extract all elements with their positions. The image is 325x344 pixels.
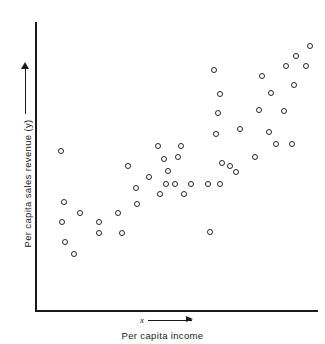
data-point xyxy=(157,191,163,197)
data-point xyxy=(181,191,187,197)
data-point xyxy=(161,156,167,162)
data-point xyxy=(188,181,194,187)
data-point xyxy=(268,90,274,96)
data-point xyxy=(62,239,68,245)
data-point xyxy=(58,148,64,154)
data-point xyxy=(219,160,225,166)
data-point xyxy=(77,210,83,216)
data-point xyxy=(71,251,77,257)
data-point xyxy=(289,141,295,147)
data-point xyxy=(293,53,299,59)
data-point xyxy=(307,43,313,49)
data-point xyxy=(165,168,171,174)
data-point xyxy=(237,126,243,132)
data-point xyxy=(155,143,161,149)
data-point xyxy=(256,107,262,113)
data-point xyxy=(96,219,102,225)
data-point xyxy=(281,108,287,114)
data-point xyxy=(233,169,239,175)
data-point xyxy=(115,210,121,216)
data-point xyxy=(207,229,213,235)
data-point xyxy=(134,201,140,207)
data-point xyxy=(125,163,131,169)
data-point xyxy=(163,181,169,187)
data-point xyxy=(119,230,125,236)
data-point xyxy=(291,82,297,88)
data-point xyxy=(59,219,65,225)
data-point xyxy=(172,181,178,187)
data-point xyxy=(61,199,67,205)
data-point xyxy=(259,73,265,79)
plot-area xyxy=(0,0,325,344)
data-point xyxy=(146,174,152,180)
data-point xyxy=(178,143,184,149)
data-point xyxy=(283,63,289,69)
data-point xyxy=(252,154,258,160)
scatter-plot-figure: Per capita sales revenue (y) x Per capit… xyxy=(0,0,325,344)
data-point xyxy=(273,141,279,147)
data-point xyxy=(133,185,139,191)
data-point xyxy=(211,67,217,73)
data-point xyxy=(215,110,221,116)
data-point xyxy=(217,181,223,187)
data-point xyxy=(266,129,272,135)
data-point xyxy=(213,131,219,137)
data-point xyxy=(217,91,223,97)
data-point xyxy=(205,181,211,187)
data-point xyxy=(227,163,233,169)
data-point xyxy=(303,63,309,69)
data-point xyxy=(175,154,181,160)
data-point xyxy=(96,230,102,236)
